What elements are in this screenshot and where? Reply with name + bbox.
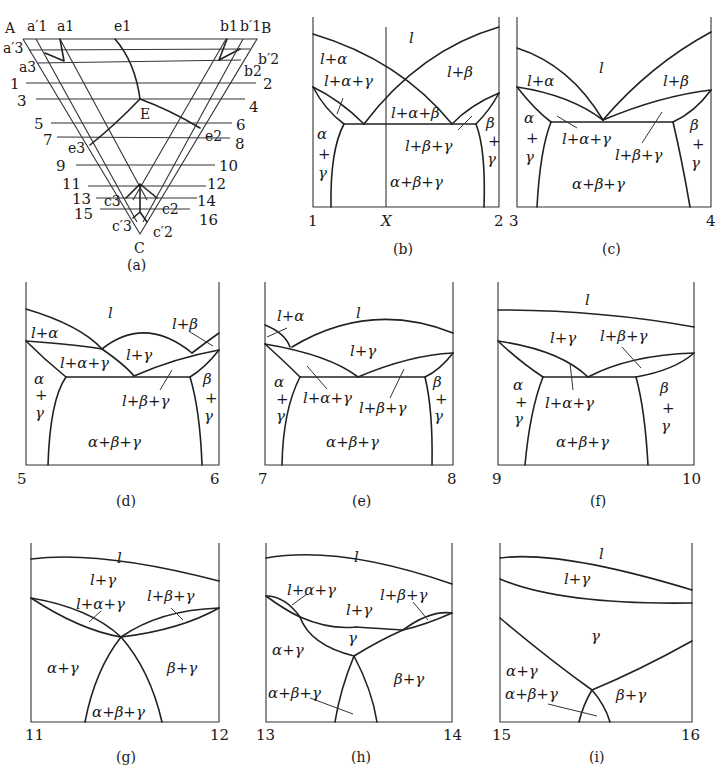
panel-c-section-3-4: l l+α l+β l+α+γ l+β+γ α + γ β + γ α+β+γ … bbox=[509, 17, 716, 257]
region-label: + bbox=[662, 399, 675, 417]
region-label: α+γ bbox=[506, 662, 538, 680]
vertex-label-B: B bbox=[261, 20, 271, 36]
axis-label-left: 13 bbox=[256, 726, 275, 744]
region-label: l bbox=[409, 29, 414, 47]
region-label: + bbox=[692, 135, 705, 153]
region-label: β+γ bbox=[615, 686, 646, 704]
region-label: l bbox=[356, 304, 361, 322]
section-label-2: 2 bbox=[263, 75, 273, 93]
solvus-alpha bbox=[537, 122, 551, 207]
region-label: γ bbox=[661, 417, 670, 435]
region-label: l+α+γ bbox=[303, 389, 352, 407]
region-label: l+α bbox=[527, 72, 555, 90]
region-label: γ bbox=[318, 164, 327, 182]
point-label-c2-prime: c′2 bbox=[153, 224, 173, 240]
region-label: β+γ bbox=[393, 670, 424, 688]
region-label: l+α+γ bbox=[60, 354, 109, 372]
section-label-14: 14 bbox=[197, 192, 216, 210]
region-label: α+β+γ bbox=[268, 684, 321, 702]
solidus-left bbox=[266, 596, 356, 628]
caption-b: (b) bbox=[393, 241, 413, 257]
region-label: + bbox=[526, 129, 539, 147]
l-alpha-gamma-upper bbox=[313, 87, 364, 124]
axis-label-right: 2 bbox=[494, 212, 504, 230]
l-alpha-gamma-lower bbox=[498, 341, 543, 377]
region-label: α bbox=[513, 376, 523, 394]
region-label: + bbox=[488, 132, 501, 150]
axis-label-right: 6 bbox=[210, 470, 220, 488]
section-label-7: 7 bbox=[43, 131, 53, 149]
solvus-alpha bbox=[579, 690, 592, 722]
section-label-8: 8 bbox=[235, 135, 245, 153]
liquidus-beta bbox=[603, 32, 711, 120]
section-label-10: 10 bbox=[219, 157, 238, 175]
region-label: l+β+γ bbox=[600, 327, 648, 345]
region-label: l+γ bbox=[550, 329, 576, 347]
region-label: β bbox=[485, 114, 495, 132]
point-label-b1: b1 bbox=[220, 18, 238, 34]
region-label: l bbox=[108, 304, 113, 322]
region-label: l+α bbox=[31, 324, 59, 342]
gamma-alpha-boundary bbox=[300, 617, 354, 656]
region-label: + bbox=[435, 390, 448, 408]
solvus-alpha bbox=[331, 124, 344, 207]
l-beta-gamma-upper bbox=[121, 608, 219, 637]
solvus-beta bbox=[476, 124, 484, 207]
region-label: γ bbox=[591, 627, 600, 645]
region-label: γ bbox=[691, 154, 700, 172]
panel-d-section-5-6: l l+α l+β l+γ l+α+γ l+β+γ α + γ β + γ α+… bbox=[17, 282, 220, 509]
section-label-9: 9 bbox=[56, 157, 66, 175]
region-label: α bbox=[274, 373, 284, 391]
leader bbox=[337, 98, 343, 114]
l-beta-gamma-upper bbox=[588, 353, 694, 377]
gamma-beta-boundary bbox=[354, 630, 403, 656]
region-label: γ bbox=[514, 410, 523, 428]
region-label: l+α+γ bbox=[545, 394, 594, 412]
beta-boundary-outer bbox=[143, 39, 243, 222]
caption-f: (f) bbox=[590, 493, 606, 509]
axis-label-left: 15 bbox=[492, 726, 511, 744]
solvus-beta bbox=[425, 377, 432, 465]
region-label: + bbox=[276, 390, 289, 408]
solvus-beta bbox=[354, 656, 377, 722]
region-label: γ bbox=[35, 404, 44, 422]
region-label: + bbox=[515, 393, 528, 411]
line-a3-b2 bbox=[37, 60, 241, 63]
axis-label-x: X bbox=[380, 212, 393, 230]
axis-label-left: 9 bbox=[492, 470, 502, 488]
section-label-16: 16 bbox=[199, 211, 218, 229]
section-label-6: 6 bbox=[236, 116, 246, 134]
region-label: l+β bbox=[172, 315, 198, 333]
point-label-c2: c2 bbox=[162, 201, 179, 217]
region-label: l+β+γ bbox=[380, 586, 428, 604]
region-label: β bbox=[689, 116, 699, 134]
axis-label-right: 10 bbox=[682, 470, 701, 488]
region-label: l+α bbox=[277, 307, 305, 325]
solvus-beta bbox=[673, 122, 690, 207]
region-label: l+α+γ bbox=[324, 72, 373, 90]
region-label: l+α bbox=[320, 50, 348, 68]
point-label-b1-prime: b′1 bbox=[240, 18, 261, 34]
region-label: l+γ bbox=[90, 571, 116, 589]
axis-label-left: 11 bbox=[25, 726, 44, 744]
region-label: l+γ bbox=[564, 570, 590, 588]
vertex-label-C: C bbox=[134, 240, 145, 256]
region-label: α bbox=[317, 125, 327, 143]
axis-label-right: 16 bbox=[681, 726, 700, 744]
caption-d: (d) bbox=[116, 493, 136, 509]
region-label: α+β+γ bbox=[556, 433, 609, 451]
region-label: α+β+γ bbox=[505, 685, 558, 703]
vertex-label-A: A bbox=[4, 20, 16, 36]
caption-a: (a) bbox=[127, 257, 146, 273]
region-label: l+β+γ bbox=[147, 587, 195, 605]
region-label: α+β+γ bbox=[88, 433, 141, 451]
solvus-alpha bbox=[525, 377, 543, 465]
region-label: γ bbox=[525, 148, 534, 166]
l-beta-gamma-lower bbox=[636, 353, 694, 377]
point-label-a1-prime: a′1 bbox=[27, 18, 47, 34]
caption-i: (i) bbox=[589, 749, 604, 765]
liquidus bbox=[31, 557, 219, 581]
l-alpha-gamma-lower bbox=[266, 596, 300, 617]
point-label-a3-prime: a′3 bbox=[3, 40, 23, 56]
region-label: l bbox=[585, 291, 590, 309]
